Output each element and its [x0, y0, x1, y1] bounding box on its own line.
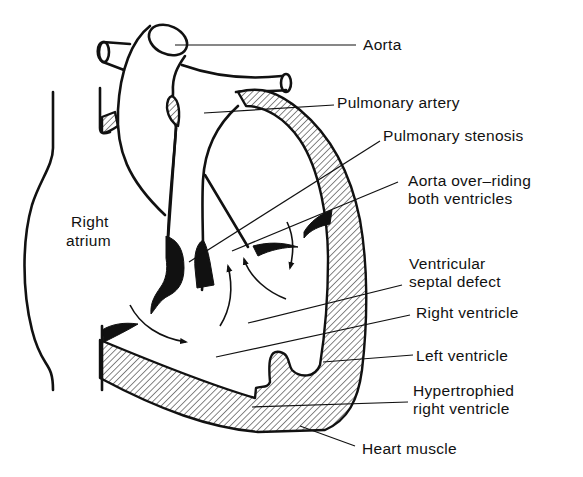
label-right-ventricle: Right ventricle — [416, 304, 519, 321]
septal-diagonal — [205, 175, 248, 247]
pulmonary-valve-right — [195, 240, 214, 288]
flow-arrow-up-1 — [220, 266, 231, 326]
label-right-atrium-2: atrium — [66, 232, 111, 249]
label-aorta-overriding-2: both ventricles — [408, 190, 512, 207]
right-atrium-wall — [25, 92, 54, 390]
tricuspid-leaflet — [102, 323, 138, 342]
label-hypertrophied-2: right ventricle — [413, 400, 510, 417]
label-right-atrium-1: Right — [71, 213, 109, 230]
pulmonary-branch-right — [182, 65, 282, 77]
septum-line — [168, 128, 176, 240]
label-vsd-1: Ventricular — [409, 255, 486, 272]
label-pulmonary-stenosis: Pulmonary stenosis — [383, 127, 524, 144]
pulmonary-valve-left — [151, 236, 184, 314]
flow-arrow-up-2 — [244, 259, 286, 299]
label-aorta-overriding-1: Aorta over–riding — [408, 172, 531, 189]
label-hypertrophied-1: Hypertrophied — [413, 382, 514, 399]
label-aorta: Aorta — [363, 36, 402, 53]
vena-cava-hatch — [102, 112, 118, 133]
aorta-tube — [118, 26, 165, 215]
heart-muscle-right-wall — [100, 90, 366, 432]
leader-aorta-overriding — [232, 182, 398, 251]
label-left-ventricle: Left ventricle — [416, 347, 508, 364]
pulmonary-stenosis-hatch — [167, 96, 179, 126]
label-heart-muscle: Heart muscle — [362, 440, 457, 457]
aortic-valve-leaflet-center — [253, 243, 298, 256]
leader-right-ventricle — [216, 315, 410, 357]
aorta-branch-left-opening — [99, 42, 109, 62]
label-pulmonary-artery: Pulmonary artery — [337, 94, 460, 111]
flow-arrow-atrium — [130, 305, 186, 342]
heart-diagram: Aorta Pulmonary artery Pulmonary stenosi… — [0, 0, 583, 477]
label-vsd-2: septal defect — [409, 273, 501, 290]
